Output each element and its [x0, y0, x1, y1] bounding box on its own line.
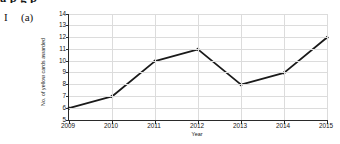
y-axis-tick	[66, 72, 70, 73]
y-axis-tick	[66, 84, 70, 85]
y-axis-tick	[66, 49, 70, 50]
y-axis-tick-label: 10	[50, 57, 66, 64]
gridline-vertical	[241, 14, 242, 120]
y-axis-tick	[66, 37, 70, 38]
x-axis-tick-label: 2009	[51, 122, 85, 129]
y-axis-tick-labels: 567891011121314	[50, 10, 66, 120]
x-axis-tick-label: 2014	[266, 122, 300, 129]
y-axis-tick-label: 13	[50, 22, 66, 29]
gridline-vertical	[284, 14, 285, 120]
gridline-vertical	[327, 14, 328, 120]
question-part-label: (a)	[21, 11, 33, 23]
x-axis-tick-label: 2010	[94, 122, 128, 129]
y-axis-tick-label: 7	[50, 92, 66, 99]
y-axis-tick-label: 12	[50, 33, 66, 40]
question-number: I	[4, 11, 8, 23]
y-axis-tick	[66, 14, 70, 15]
worksheet-page: a p g p I (a) No. of yellow cards awarde…	[0, 0, 340, 144]
y-axis-tick	[66, 61, 70, 62]
y-axis-tick	[66, 25, 70, 26]
y-axis-tick-label: 14	[50, 10, 66, 17]
y-axis-tick-label: 8	[50, 81, 66, 88]
y-axis-tick	[66, 108, 70, 109]
cut-off-heading: a p g p	[0, 0, 340, 3]
x-axis-tick-label: 2013	[223, 122, 257, 129]
gridline-vertical	[155, 14, 156, 120]
gridline-vertical	[198, 14, 199, 120]
x-axis-tick-label: 2012	[180, 122, 214, 129]
y-axis-tick-label: 9	[50, 69, 66, 76]
y-axis-tick-label: 11	[50, 45, 66, 52]
line-chart: No. of yellow cards awarded 567891011121…	[44, 10, 336, 142]
y-axis-tick-label: 6	[50, 104, 66, 111]
x-axis-tick-label: 2015	[309, 122, 340, 129]
y-axis-tick	[66, 96, 70, 97]
x-axis-title: Year	[68, 131, 326, 137]
y-axis-title: No. of yellow cards awarded	[40, 28, 50, 116]
gridline-vertical	[112, 14, 113, 120]
x-axis-tick-label: 2011	[137, 122, 171, 129]
plot-area	[68, 14, 327, 121]
